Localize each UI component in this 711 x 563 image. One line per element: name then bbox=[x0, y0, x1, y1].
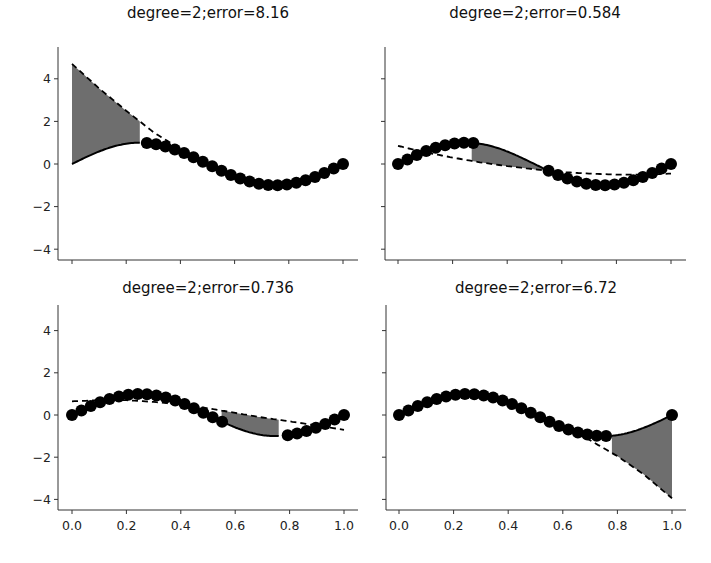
data-point bbox=[665, 158, 677, 170]
subplot-title: degree=2;error=6.72 bbox=[455, 279, 617, 297]
y-tick-label: −4 bbox=[33, 242, 51, 257]
y-tick-label: 0 bbox=[43, 157, 51, 172]
x-tick-label: 0.0 bbox=[389, 518, 409, 533]
subplot-bottom-right: degree=2;error=6.72 0.00.20.40.60.81.0 bbox=[382, 279, 686, 533]
y-tick-label: 0 bbox=[43, 408, 51, 423]
x-tick-label: 0.0 bbox=[62, 518, 82, 533]
x-tick-label: 1.0 bbox=[334, 518, 354, 533]
x-tick-label: 0.8 bbox=[607, 518, 627, 533]
subplot-bottom-left: degree=2;error=0.736 −4−20240.00.20.40.6… bbox=[33, 279, 358, 533]
data-point bbox=[216, 416, 228, 428]
x-tick-label: 0.8 bbox=[280, 518, 300, 533]
x-tick-label: 0.6 bbox=[553, 518, 573, 533]
x-tick-label: 1.0 bbox=[662, 518, 682, 533]
data-point bbox=[337, 158, 349, 170]
x-tick-label: 0.4 bbox=[498, 518, 518, 533]
data-point bbox=[467, 137, 479, 149]
y-tick-label: −2 bbox=[33, 450, 51, 465]
subplot-top-left: degree=2;error=8.16 −4−2024 bbox=[33, 4, 358, 264]
y-tick-label: −2 bbox=[33, 199, 51, 214]
y-tick-label: 2 bbox=[43, 365, 51, 380]
y-tick-label: −4 bbox=[33, 492, 51, 507]
y-tick-label: 2 bbox=[43, 114, 51, 129]
subplot-top-right: degree=2;error=0.584 bbox=[381, 4, 686, 264]
x-tick-label: 0.4 bbox=[171, 518, 191, 533]
subplot-title: degree=2;error=0.736 bbox=[122, 279, 294, 297]
data-point bbox=[666, 409, 678, 421]
y-tick-label: 4 bbox=[43, 71, 51, 86]
data-point bbox=[338, 409, 350, 421]
x-tick-label: 0.6 bbox=[225, 518, 245, 533]
y-tick-label: 4 bbox=[43, 323, 51, 338]
x-tick-label: 0.2 bbox=[444, 518, 464, 533]
x-tick-label: 0.2 bbox=[116, 518, 136, 533]
subplot-title: degree=2;error=0.584 bbox=[449, 4, 621, 22]
data-point bbox=[600, 430, 612, 442]
subplot-title: degree=2;error=8.16 bbox=[127, 4, 289, 22]
figure: degree=2;error=8.16 −4−2024 degree=2;err… bbox=[0, 0, 711, 563]
